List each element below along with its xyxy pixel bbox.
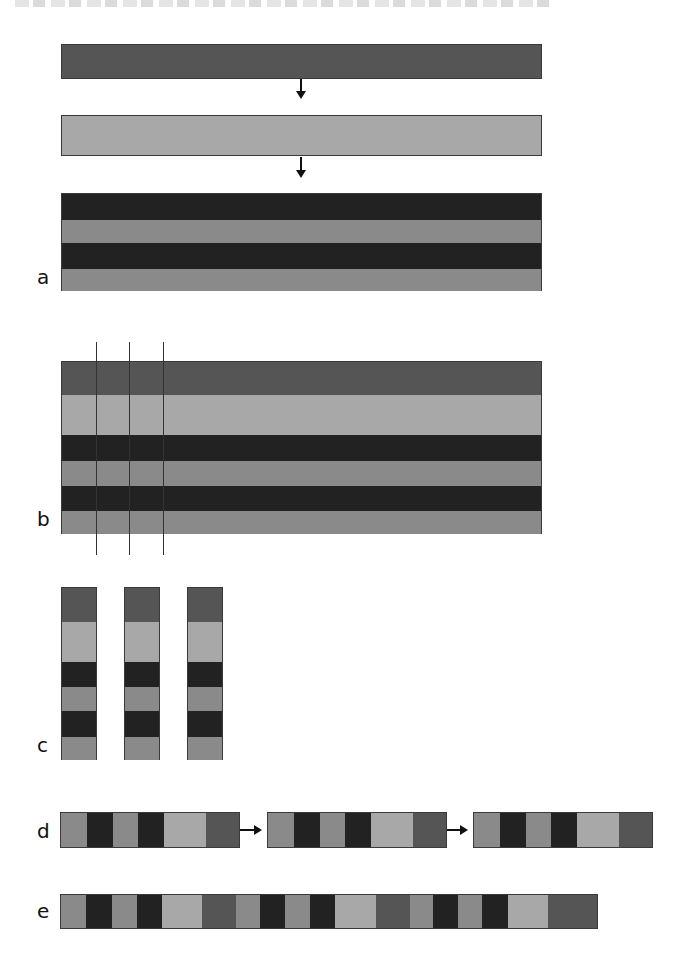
panel-label-b: b <box>37 509 50 529</box>
arrow-down-icon <box>300 79 302 92</box>
cut-line <box>129 342 130 555</box>
column-strip <box>187 587 223 760</box>
segment-row <box>60 812 240 848</box>
layer-stack-b <box>61 361 542 534</box>
panel-label-a: a <box>37 267 49 287</box>
arrow-right-icon <box>447 829 461 831</box>
panel-label-e: e <box>37 901 49 921</box>
column-strip <box>124 587 160 760</box>
column-strip <box>61 587 97 760</box>
layer-mid-dark <box>61 44 542 79</box>
layer-stack <box>61 193 542 291</box>
panel-label-d: d <box>37 821 50 841</box>
segment-row <box>267 812 447 848</box>
cropped-heading <box>15 0 555 7</box>
arrow-right-icon <box>240 829 255 831</box>
arrow-down-icon <box>300 157 302 171</box>
combined-row <box>60 894 598 929</box>
cut-line <box>96 342 97 555</box>
layer-light <box>61 115 542 156</box>
panel-label-c: c <box>37 735 48 755</box>
cut-line <box>163 342 164 555</box>
segment-row <box>473 812 653 848</box>
